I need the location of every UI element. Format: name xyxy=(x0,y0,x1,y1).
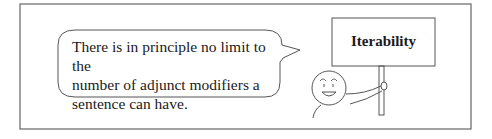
speech-line: number of adjunct modifiers a xyxy=(72,75,282,94)
speech-line: sentence can have. xyxy=(72,94,282,113)
hand xyxy=(381,82,387,90)
speech-bubble-text: There is in principle no limit to the nu… xyxy=(72,37,282,113)
speech-line: There is in principle no limit to the xyxy=(72,37,282,75)
sign-stick xyxy=(379,66,384,115)
sign-label: Iterability xyxy=(332,33,435,50)
smiley-person-icon xyxy=(312,71,382,118)
